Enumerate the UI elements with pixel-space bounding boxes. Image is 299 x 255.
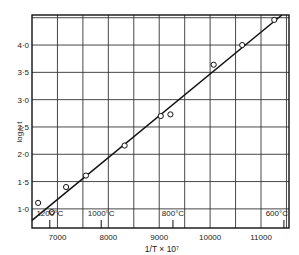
data-point-marker (168, 112, 173, 117)
temperature-label: 600°C (266, 209, 289, 218)
data-point-marker (272, 17, 277, 22)
x-tick-label: 9000 (150, 233, 168, 242)
temperature-label: 1200°C (36, 209, 63, 218)
data-point-marker (36, 200, 41, 205)
y-tick-label: 2·0 (17, 150, 29, 159)
data-point-marker (211, 62, 216, 67)
data-point-marker (122, 143, 127, 148)
y-tick-label: 3·5 (17, 68, 29, 77)
x-tick-label: 7000 (49, 233, 67, 242)
data-points (36, 17, 277, 214)
data-point-marker (240, 42, 245, 47)
x-tick-label: 11000 (250, 233, 272, 242)
temperature-annotations: 1200°C1000°C800°C600°C (36, 209, 288, 228)
y-tick-label: 1·5 (17, 178, 29, 187)
data-point-marker (83, 173, 88, 178)
y-tick-label: 1·0 (17, 205, 29, 214)
chart: 1·01·52·02·53·03·54·0 700080009000100001… (0, 0, 299, 255)
plot-frame (32, 15, 289, 228)
data-point-marker (63, 184, 68, 189)
y-axis-label: log₁₀ t (15, 121, 24, 143)
y-tick-label: 4·0 (17, 41, 29, 50)
x-tick-label: 8000 (99, 233, 117, 242)
data-point-marker (158, 113, 163, 118)
y-tick-label: 3·0 (17, 96, 29, 105)
grid-lines (32, 15, 289, 228)
temperature-label: 800°C (162, 209, 185, 218)
x-axis-label: 1/T × 10⁷ (145, 244, 179, 254)
temperature-label: 1000°C (88, 209, 115, 218)
x-tick-label: 10000 (199, 233, 222, 242)
x-axis-tick-labels: 7000800090001000011000 (49, 233, 273, 242)
